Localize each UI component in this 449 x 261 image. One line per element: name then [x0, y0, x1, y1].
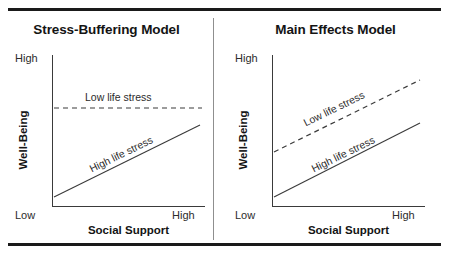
x-axis-high-label: High — [172, 209, 195, 221]
low-life-stress-line — [274, 80, 420, 152]
low-life-stress-label: Low life stress — [85, 91, 152, 103]
plot-area: Low life stress High life stress — [52, 55, 205, 207]
x-axis-low-label: Low — [15, 209, 35, 221]
x-axis-low-label: Low — [235, 209, 255, 221]
high-life-stress-line — [54, 125, 200, 197]
figure-container: Stress-Buffering Model High Low High Wel… — [0, 0, 449, 261]
y-axis-title-text: Well-Being — [17, 110, 29, 169]
high-life-stress-line — [274, 123, 420, 197]
y-axis-title: Well-Being — [12, 100, 34, 180]
panel-title: Main Effects Model — [222, 22, 449, 37]
y-axis-title: Well-Being — [232, 100, 254, 180]
y-axis-high-label: High — [235, 52, 258, 64]
x-axis-title: Social Support — [272, 224, 425, 236]
series-lines — [272, 55, 425, 207]
panel-title: Stress-Buffering Model — [0, 22, 213, 37]
plot-area: Low life stress High life stress — [272, 55, 425, 207]
panel-divider — [213, 18, 214, 240]
x-axis-title: Social Support — [52, 224, 205, 236]
y-axis-title-text: Well-Being — [237, 110, 249, 169]
series-lines — [52, 55, 205, 207]
panel-main-effects-model: Main Effects Model High Low High Well-Be… — [222, 0, 449, 261]
y-axis-high-label: High — [15, 52, 38, 64]
x-axis-high-label: High — [392, 209, 415, 221]
panel-stress-buffering-model: Stress-Buffering Model High Low High Wel… — [0, 0, 213, 261]
